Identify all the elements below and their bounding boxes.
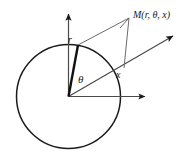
label-radius: r: [68, 35, 72, 45]
label-point-m: M(r, θ, x): [133, 10, 170, 20]
radius-segment: [69, 45, 79, 97]
figure-container: r θ x M(r, θ, x): [0, 0, 189, 159]
label-axial-x: x: [116, 70, 120, 80]
edge-m-to-foot: [124, 18, 129, 68]
diagonal-axis: [69, 36, 174, 97]
geometry-diagram-svg: [0, 0, 189, 159]
label-angle-theta: θ: [78, 74, 83, 85]
edge-radius-to-m: [78, 18, 129, 45]
